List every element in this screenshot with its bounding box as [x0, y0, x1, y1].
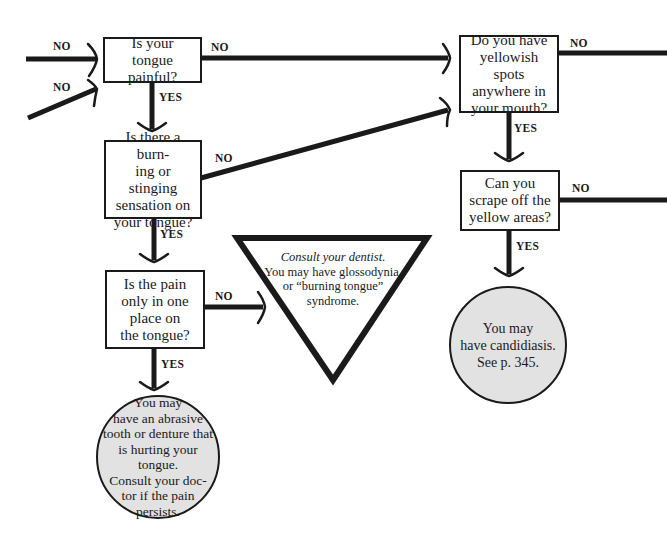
question-line: Do you have [465, 32, 553, 49]
question-scrape-yellow: Can you scrape off the yellow areas? [460, 170, 560, 231]
question-line: Is there a burn- [110, 129, 196, 163]
question-line: Is the pain [120, 276, 190, 293]
edge-label-box5-yes: YES [516, 240, 539, 252]
result-line: Consult your doc- [98, 473, 218, 489]
result-candidiasis: You may have candidiasis. See p. 345. [449, 286, 567, 404]
result-line: persists. [98, 504, 218, 520]
question-line: your tongue? [110, 214, 196, 231]
result-line: See p. 345. [460, 354, 556, 371]
edge-label-box4-yes: YES [514, 122, 537, 134]
result-line: syndrome. [248, 294, 418, 309]
question-line: scrape off the [469, 192, 551, 209]
result-line: You may have glossodynia, [248, 265, 418, 280]
question-line: only in one [120, 293, 190, 310]
question-pain-one-place: Is the pain only in one place on the ton… [105, 270, 205, 349]
result-abrasive-tooth: You may have an abrasive tooth or dentur… [96, 395, 220, 519]
result-glossodynia-text: Consult your dentist. You may have gloss… [248, 250, 418, 308]
question-line: yellow areas? [469, 209, 551, 226]
question-line: ing or stinging [110, 163, 196, 197]
question-line: your mouth? [465, 100, 553, 117]
question-tongue-painful: Is your tongue painful? [103, 37, 202, 83]
question-line: the tongue? [120, 327, 190, 344]
question-line: yellowish spots [465, 49, 553, 83]
result-emphasis: Consult your dentist. [248, 250, 418, 265]
result-line: tooth or denture that [98, 426, 218, 442]
question-burning-sensation: Is there a burn- ing or stinging sensati… [104, 140, 202, 219]
result-line: You may [98, 395, 218, 411]
edge-label-incoming-1-no: NO [53, 40, 71, 52]
edge-label-box3-no: NO [215, 290, 233, 302]
question-line: Can you [469, 175, 551, 192]
question-line: anywhere in [465, 83, 553, 100]
edge-incoming-2 [28, 89, 96, 118]
question-line: sensation on [110, 197, 196, 214]
edge-label-box3-yes: YES [161, 358, 184, 370]
question-yellowish-spots: Do you have yellowish spots anywhere in … [459, 35, 559, 113]
result-line: or “burning tongue” [248, 279, 418, 294]
edge-label-box1-yes: YES [159, 91, 182, 103]
edge-label-box2-no: NO [215, 152, 233, 164]
result-line: You may [460, 320, 556, 337]
result-line: have an abrasive [98, 411, 218, 427]
result-line: is hurting your tongue. [98, 442, 218, 473]
edge-label-incoming-2-no: NO [53, 81, 71, 93]
edge-box2-no [201, 110, 448, 178]
result-line: have candidiasis. [460, 337, 556, 354]
edge-label-box1-no: NO [211, 41, 229, 53]
question-line: place on [120, 310, 190, 327]
result-line: tor if the pain [98, 488, 218, 504]
edge-label-box5-no: NO [572, 182, 590, 194]
edge-label-box4-no: NO [570, 37, 588, 49]
question-line: Is your [109, 35, 196, 52]
question-line: tongue painful? [109, 52, 196, 86]
